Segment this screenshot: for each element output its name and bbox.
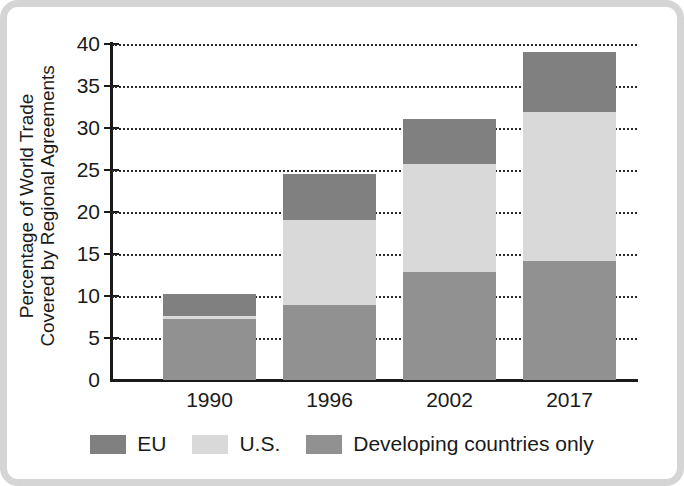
legend-swatch-us-icon bbox=[192, 435, 228, 454]
plot-area bbox=[112, 44, 637, 380]
x-tick-label-2017: 2017 bbox=[523, 388, 616, 412]
legend-item-eu[interactable]: EU bbox=[90, 432, 192, 456]
legend-label-developing: Developing countries only bbox=[353, 432, 593, 456]
x-tick-label-2002: 2002 bbox=[403, 388, 496, 412]
bar-segment-us-1990[interactable] bbox=[163, 316, 256, 319]
bar-group-1990[interactable] bbox=[163, 44, 256, 380]
legend-swatch-developing-icon bbox=[306, 435, 342, 454]
bar-segment-us-2002[interactable] bbox=[403, 164, 496, 272]
bar-segment-eu-2017[interactable] bbox=[523, 52, 616, 112]
bar-segment-eu-1990[interactable] bbox=[163, 294, 256, 316]
y-axis-title-line-1: Percentage of World Trade bbox=[16, 94, 37, 318]
legend-label-us: U.S. bbox=[239, 432, 280, 456]
y-tick-label-40: 40 bbox=[56, 32, 100, 56]
legend-label-eu: EU bbox=[137, 432, 166, 456]
bar-segment-us-2017[interactable] bbox=[523, 112, 616, 261]
y-axis-tick-labels: 0 5 10 15 20 25 30 35 40 bbox=[46, 0, 100, 486]
y-tick-label-20: 20 bbox=[56, 200, 100, 224]
bar-segment-eu-1996[interactable] bbox=[283, 174, 376, 220]
bar-segment-us-1996[interactable] bbox=[283, 220, 376, 305]
y-tick-label-0: 0 bbox=[56, 368, 100, 392]
bar-segment-developing-1990[interactable] bbox=[163, 319, 256, 380]
y-tick-label-25: 25 bbox=[56, 158, 100, 182]
y-tick-label-30: 30 bbox=[56, 116, 100, 140]
x-tick-label-1990: 1990 bbox=[163, 388, 256, 412]
bar-segment-developing-2002[interactable] bbox=[403, 272, 496, 380]
bar-group-1996[interactable] bbox=[283, 44, 376, 380]
y-tick-label-15: 15 bbox=[56, 242, 100, 266]
bar-segment-eu-2002[interactable] bbox=[403, 119, 496, 164]
bar-group-2017[interactable] bbox=[523, 44, 616, 380]
bar-group-2002[interactable] bbox=[403, 44, 496, 380]
legend-item-developing[interactable]: Developing countries only bbox=[306, 432, 593, 456]
legend-swatch-eu-icon bbox=[90, 435, 126, 454]
y-tick-label-5: 5 bbox=[56, 326, 100, 350]
bar-segment-developing-2017[interactable] bbox=[523, 261, 616, 380]
legend-item-us[interactable]: U.S. bbox=[192, 432, 306, 456]
chart-figure: Percentage of World Trade Covered by Reg… bbox=[0, 0, 684, 486]
chart-legend: EU U.S. Developing countries only bbox=[0, 432, 684, 456]
bar-segment-developing-1996[interactable] bbox=[283, 305, 376, 380]
x-tick-label-1996: 1996 bbox=[283, 388, 376, 412]
y-tick-label-35: 35 bbox=[56, 74, 100, 98]
y-tick-label-10: 10 bbox=[56, 284, 100, 308]
